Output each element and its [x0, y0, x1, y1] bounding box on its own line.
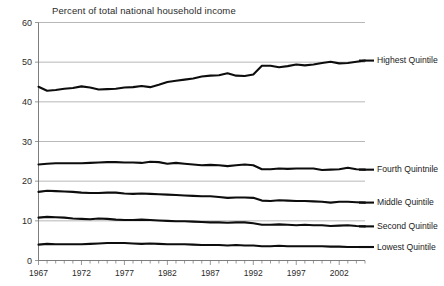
- series-label-highest-quintile: Highest Quintile: [377, 55, 438, 65]
- x-axis-tick-labels: 19671972197719821987199219972002: [29, 261, 365, 278]
- series-label-middle-quintile: Middle Quintile: [377, 197, 434, 207]
- series-label-fourth-quintile: Fourth Quintnile: [377, 164, 438, 174]
- series-line-lowest-quintile: [39, 243, 366, 247]
- series-line-middle-quintile: [39, 191, 366, 203]
- series-label-lowest-quintile: Lowest Quintile: [377, 242, 436, 252]
- y-axis-tick-labels: 0102030405060: [22, 18, 32, 266]
- series-label-second-quintile: Second Quintile: [377, 221, 438, 231]
- data-series-group: [39, 61, 366, 247]
- x-tick-label-1992: 1992: [244, 268, 263, 278]
- y-tick-label-50: 50: [22, 57, 32, 67]
- y-tick-label-60: 60: [22, 18, 32, 28]
- y-tick-label-10: 10: [22, 216, 32, 226]
- series-line-second-quintile: [39, 217, 366, 227]
- chart-plot-area: 0102030405060 19671972197719821987199219…: [0, 0, 444, 286]
- x-tick-label-1997: 1997: [287, 268, 306, 278]
- series-line-fourth-quintile: [39, 162, 366, 170]
- y-tick-label-40: 40: [22, 97, 32, 107]
- x-tick-label-1967: 1967: [29, 268, 48, 278]
- y-tick-label-30: 30: [22, 137, 32, 147]
- series-labels-group: Highest QuintileFourth QuintnileMiddle Q…: [359, 55, 438, 251]
- y-tick-label-0: 0: [27, 256, 32, 266]
- y-tick-label-20: 20: [22, 176, 32, 186]
- x-tick-label-2002: 2002: [330, 268, 349, 278]
- series-line-highest-quintile: [39, 61, 366, 91]
- income-quintile-chart: Percent of total national household inco…: [0, 0, 444, 286]
- x-tick-label-1977: 1977: [115, 268, 134, 278]
- x-tick-label-1987: 1987: [201, 268, 220, 278]
- x-tick-label-1982: 1982: [158, 268, 177, 278]
- x-tick-label-1972: 1972: [72, 268, 91, 278]
